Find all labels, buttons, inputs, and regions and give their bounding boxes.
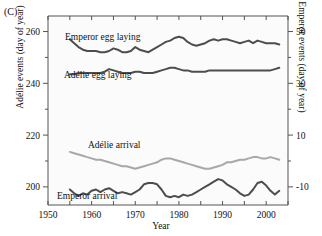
series-label-emperor-arrival: Emperor arrival	[57, 191, 118, 201]
y-left-tick-label: 240	[26, 79, 41, 89]
series-label-adelie-egg-laying: Adélie egg laying	[64, 70, 132, 80]
y-right-tick-label: 50	[296, 27, 306, 37]
x-tick-label: 1980	[169, 210, 188, 220]
y-right-tick-label: 10	[296, 131, 306, 141]
x-tick-label: 1990	[213, 210, 232, 220]
x-tick-label: 1970	[126, 210, 145, 220]
y-left-tick-label: 260	[26, 27, 41, 37]
y-right-tick-label: 30	[296, 79, 306, 89]
y-left-tick-label: 200	[26, 182, 41, 192]
series-label-emperor-egg-laying: Emperor egg laying	[65, 32, 141, 42]
x-tick-label: 1950	[39, 210, 58, 220]
figure-panel-c: (C) Adélie events (day of year) Emperor …	[0, 0, 322, 236]
series-label-adelie-arrival: Adélie arrival	[88, 140, 141, 150]
x-tick-label: 2000	[257, 210, 276, 220]
chart-canvas: 195019601970198019902000200220240260-101…	[0, 0, 322, 236]
y-right-tick-label: -10	[296, 182, 309, 192]
x-tick-label: 1960	[82, 210, 101, 220]
y-left-tick-label: 220	[26, 131, 41, 141]
